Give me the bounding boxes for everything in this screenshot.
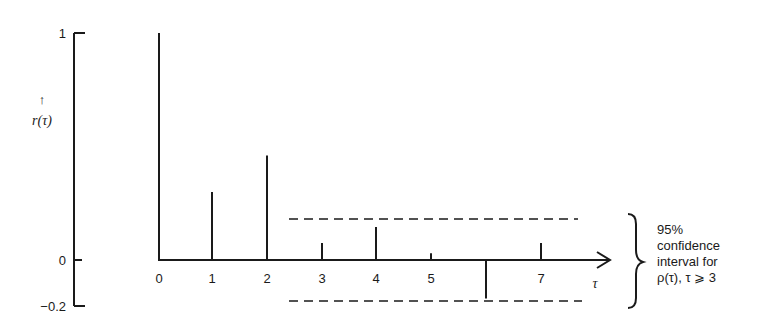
y-axis: [74, 33, 85, 306]
annotation-line: ρ(τ), τ ⩾ 3: [657, 270, 720, 286]
x-tick-label: 0: [155, 271, 162, 286]
y-tick-label: 1: [59, 26, 66, 41]
y-tick-labels: 1 0 −0.2: [40, 26, 66, 314]
x-tick-label: 4: [372, 271, 379, 286]
x-tick-label: 1: [208, 271, 215, 286]
x-tick-label: 3: [318, 271, 325, 286]
correlogram-chart: 1 0 −0.2 ↑ r(τ) τ 0123457: [0, 0, 757, 326]
y-axis-arrow-icon: ↑: [39, 92, 46, 107]
x-axis-label: τ: [592, 276, 598, 291]
y-tick-label: −0.2: [40, 299, 66, 314]
brace-icon: [628, 214, 643, 308]
x-tick-label: 5: [427, 271, 434, 286]
x-tick-label: 7: [537, 271, 544, 286]
annotation-line: 95%: [657, 222, 720, 238]
confidence-annotation: 95% confidence interval for ρ(τ), τ ⩾ 3: [657, 222, 720, 286]
x-tick-label: 2: [263, 271, 270, 286]
annotation-line: confidence: [657, 238, 720, 254]
stems: [159, 33, 541, 299]
annotation-line: interval for: [657, 254, 720, 270]
x-axis: [158, 252, 610, 268]
y-axis-label: r(τ): [32, 113, 52, 129]
y-tick-label: 0: [59, 253, 66, 268]
